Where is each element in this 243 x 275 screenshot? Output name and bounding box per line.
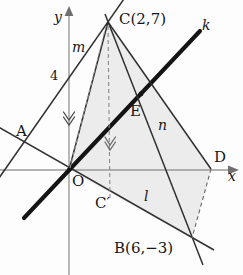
line-label-n: n bbox=[158, 118, 167, 132]
geometry-figure: y x O 4 C(2,7) B(6,−3) A D E C′ k l m n bbox=[0, 0, 243, 275]
line-label-l: l bbox=[144, 189, 148, 203]
point-dot-e bbox=[139, 92, 144, 97]
point-label-b: B(6,−3) bbox=[114, 241, 173, 256]
point-label-e: E bbox=[130, 104, 141, 119]
origin-label: O bbox=[72, 174, 84, 189]
tick-label-4: 4 bbox=[50, 69, 58, 82]
y-axis-arrowhead bbox=[65, 6, 74, 16]
shaded-region bbox=[69, 22, 211, 238]
point-label-c: C(2,7) bbox=[119, 12, 166, 27]
point-label-a: A bbox=[16, 124, 27, 139]
x-axis-label: x bbox=[228, 169, 236, 183]
point-dot-o bbox=[67, 168, 71, 172]
line-label-k: k bbox=[202, 18, 210, 32]
point-label-c-prime: C′ bbox=[95, 196, 110, 211]
y-axis-label: y bbox=[54, 10, 62, 24]
line-label-m: m bbox=[72, 40, 85, 54]
point-label-d: D bbox=[214, 150, 226, 165]
figure-canvas bbox=[0, 0, 243, 275]
